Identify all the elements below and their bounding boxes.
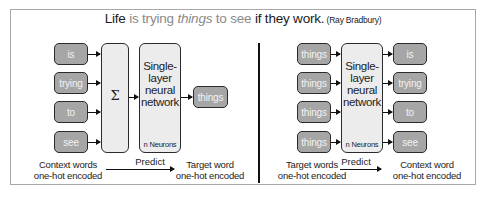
arrow-icon — [331, 83, 340, 84]
title-is-trying: is trying — [126, 11, 178, 26]
cbow-context-word-box: to — [54, 101, 88, 123]
caption-line: one-hot encoded — [382, 170, 472, 181]
network-label-line: Single- — [140, 60, 180, 72]
cbow-context-word-box: see — [54, 131, 88, 153]
skipgram-input-word-box: things — [297, 101, 331, 123]
word-label: to — [67, 107, 75, 118]
arrow-icon — [181, 97, 192, 98]
neurons-label: n Neurons — [140, 140, 180, 149]
skipgram-output-word-box: trying — [393, 72, 427, 94]
sum-block: Σ — [101, 43, 129, 153]
word-label: see — [402, 137, 418, 148]
skipgram-input-word-box: things — [297, 131, 331, 153]
network-label-line: layer — [140, 72, 180, 84]
cbow-context-word-box: trying — [54, 72, 88, 94]
quote-title: Life is trying things to see if they wor… — [0, 11, 486, 26]
network-label-line: network — [140, 96, 180, 108]
network-label-line: neural — [140, 84, 180, 96]
arrow-icon — [88, 142, 100, 143]
sigma-icon: Σ — [102, 88, 128, 103]
network-label: Single- layer neural network — [140, 60, 180, 108]
skipgram-predict-label: Predict — [331, 156, 381, 167]
predict-arrow-icon — [340, 169, 381, 170]
word-label: things — [198, 92, 224, 103]
skipgram-output-word-box: is — [393, 43, 427, 65]
word-label: things — [301, 137, 327, 148]
skipgram-output-caption: Context word one-hot encoded — [382, 159, 472, 181]
network-label-line: network — [342, 96, 382, 108]
arrow-icon — [383, 54, 392, 55]
network-label-line: Single- — [342, 60, 382, 72]
word-label: things — [301, 49, 327, 60]
word-label: trying — [398, 78, 421, 89]
arrow-icon — [383, 142, 392, 143]
title-life: Life — [105, 11, 126, 26]
word-label: is — [68, 49, 75, 60]
skipgram-input-word-box: things — [297, 43, 331, 65]
arrow-icon — [88, 54, 100, 55]
neurons-label: n Neurons — [342, 140, 382, 149]
network-label-line: neural — [342, 84, 382, 96]
arrow-icon — [331, 142, 340, 143]
cbow-output-caption: Target word one-hot encoded — [170, 159, 250, 181]
caption-line: one-hot encoded — [272, 170, 352, 181]
skipgram-output-word-box: to — [393, 101, 427, 123]
title-things: things — [177, 11, 212, 26]
skipgram-input-word-box: things — [297, 72, 331, 94]
skipgram-output-word-box: see — [393, 131, 427, 153]
caption-line: Context words — [18, 159, 118, 170]
word-label: things — [301, 107, 327, 118]
title-if-they-work: if they work. — [255, 11, 324, 26]
panel-divider — [258, 43, 260, 183]
network-label: Single- layer neural network — [342, 60, 382, 108]
arrow-icon — [331, 54, 340, 55]
cbow-target-word-box: things — [193, 86, 228, 108]
arrow-icon — [88, 83, 100, 84]
cbow-context-word-box: is — [54, 43, 88, 65]
word-label: see — [63, 137, 79, 148]
word-label: things — [301, 78, 327, 89]
word-label: trying — [59, 78, 82, 89]
word-label: to — [406, 107, 414, 118]
arrow-icon — [383, 83, 392, 84]
cbow-input-caption: Context words one-hot encoded — [18, 159, 118, 181]
network-label-line: layer — [342, 72, 382, 84]
neural-network-block: Single- layer neural network n Neurons — [139, 43, 181, 153]
caption-line: one-hot encoded — [18, 170, 118, 181]
arrow-icon — [129, 97, 138, 98]
arrow-icon — [88, 112, 100, 113]
title-attribution: (Ray Bradbury) — [324, 15, 381, 25]
arrow-icon — [331, 112, 340, 113]
predict-arrow-icon — [106, 169, 174, 170]
arrow-icon — [383, 112, 392, 113]
caption-line: Target word — [170, 159, 250, 170]
neural-network-block: Single- layer neural network n Neurons — [341, 43, 383, 153]
word-label: is — [407, 49, 414, 60]
caption-line: Context word — [382, 159, 472, 170]
caption-line: one-hot encoded — [170, 170, 250, 181]
title-to-see: to see — [212, 11, 255, 26]
